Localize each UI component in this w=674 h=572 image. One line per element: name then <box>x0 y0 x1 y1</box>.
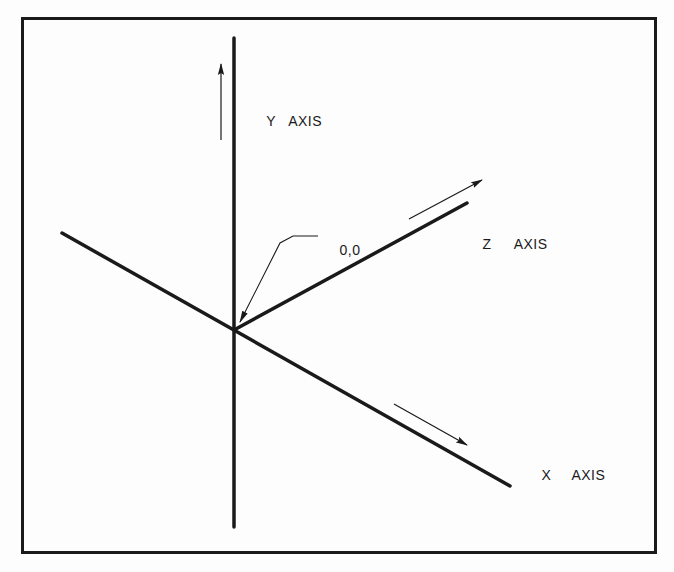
x-axis-label: XAXIS <box>524 454 605 496</box>
y-axis-letter: Y <box>266 113 276 129</box>
origin-leader-arrow-icon <box>240 236 318 322</box>
y-axis-word: AXIS <box>288 113 322 129</box>
diagram-canvas: YAXIS 0,0 ZAXIS XAXIS <box>0 0 674 572</box>
x-axis-line <box>62 233 510 486</box>
y-axis-label: YAXIS <box>249 100 322 142</box>
z-axis-letter: Z <box>483 236 492 252</box>
x-axis-letter: X <box>542 467 552 483</box>
origin-text: 0,0 <box>340 242 361 258</box>
z-axis-label: ZAXIS <box>465 223 548 265</box>
origin-label: 0,0 <box>322 229 361 271</box>
z-axis-word: AXIS <box>514 236 548 252</box>
x-direction-arrow-icon <box>394 404 467 445</box>
x-axis-word: AXIS <box>571 467 605 483</box>
